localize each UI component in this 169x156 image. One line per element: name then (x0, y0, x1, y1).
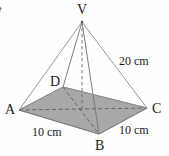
vertex-label-d: D (50, 75, 60, 89)
pyramid-diagram: e V D A C B 20 cm 10 cm 10 cm (0, 0, 169, 156)
vertex-label-b: B (95, 139, 104, 153)
dimension-label-base-left: 10 cm (32, 126, 62, 138)
vertex-label-c: C (152, 102, 161, 116)
clipped-corner-glyph: e (0, 3, 7, 14)
dimension-label-slant-edge: 20 cm (119, 55, 149, 67)
lateral-edge-vd (63, 22, 82, 87)
vertex-label-v: V (77, 3, 87, 17)
apex-point-marker (81, 21, 84, 24)
vertex-label-a: A (5, 103, 15, 117)
dimension-label-base-right: 10 cm (119, 124, 149, 136)
